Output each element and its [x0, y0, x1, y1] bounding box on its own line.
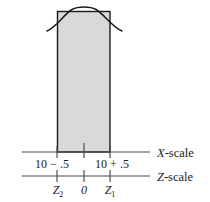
z-tick-label-z1: Z1 [105, 183, 116, 199]
statistics-figure: 10 − .5 10 + .5 X-scale Z2 0 Z1 Z-scale [0, 0, 210, 202]
z-axis-name-rest: -scale [164, 170, 194, 184]
z-tick-label-z1-subscript: 1 [111, 190, 115, 199]
z-tick-label-zero: 0 [81, 183, 87, 197]
figure-canvas: 10 − .5 10 + .5 X-scale Z2 0 Z1 Z-scale [0, 0, 210, 202]
x-tick-label-upper: 10 + .5 [95, 157, 129, 171]
shaded-bar [58, 12, 111, 153]
z-tick-label-zero-base: 0 [81, 183, 87, 197]
x-axis-name-rest: -scale [165, 146, 195, 160]
z-tick-label-z2-subscript: 2 [59, 190, 63, 199]
x-axis-name: X-scale [156, 146, 194, 160]
z-axis-name: Z-scale [157, 170, 194, 184]
x-tick-label-lower: 10 − .5 [35, 157, 69, 171]
z-tick-label-z2: Z2 [53, 183, 64, 199]
